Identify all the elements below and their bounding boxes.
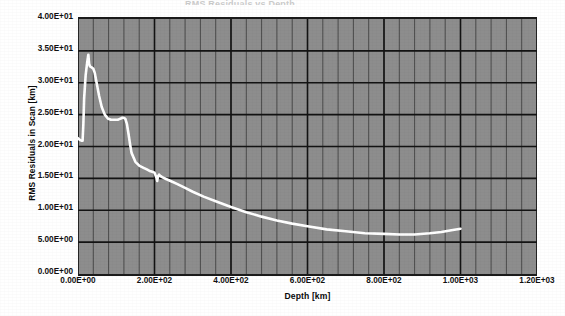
x-axis-tick-label: 2.00E+02 xyxy=(115,276,195,286)
x-axis-tick-label: 0.00E+00 xyxy=(38,276,118,286)
y-axis-tick-label: 2.50E+01 xyxy=(3,108,73,117)
rms-residuals-chart: RMS Residuals vs Depth RMS Residuals in … xyxy=(0,0,565,316)
y-axis-tick-label: 4.00E+01 xyxy=(3,12,73,21)
x-axis-title: Depth [km] xyxy=(78,291,537,301)
x-axis-tick-label: 1.00E+03 xyxy=(421,276,501,286)
plot-area xyxy=(78,17,537,276)
y-axis-tick-label: 1.00E+01 xyxy=(3,203,73,212)
y-axis-tick-label: 3.50E+01 xyxy=(3,44,73,53)
y-axis-tick-label: 3.00E+01 xyxy=(3,76,73,85)
chart-title-cutoff: RMS Residuals vs Depth xyxy=(185,0,390,5)
x-axis-tick-label: 8.00E+02 xyxy=(344,276,424,286)
x-axis-tick-label: 6.00E+02 xyxy=(268,276,348,286)
data-series-line xyxy=(78,55,461,235)
plot-svg xyxy=(78,19,537,274)
x-axis-tick-label: 4.00E+02 xyxy=(191,276,271,286)
y-axis-tick-label: 2.00E+01 xyxy=(3,140,73,149)
x-axis-tick-labels: 0.00E+002.00E+024.00E+026.00E+028.00E+02… xyxy=(0,276,565,290)
y-axis-tick-label: 0.00E+00 xyxy=(3,267,73,276)
y-axis-tick-label: 5.00E+00 xyxy=(3,235,73,244)
y-axis-tick-label: 1.50E+01 xyxy=(3,171,73,180)
y-axis-tick-labels: 0.00E+005.00E+001.00E+011.50E+012.00E+01… xyxy=(0,0,73,316)
x-axis-tick-label: 1.20E+03 xyxy=(497,276,565,286)
